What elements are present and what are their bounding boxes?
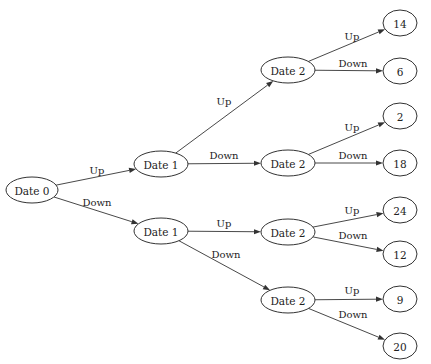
edge-line xyxy=(188,231,254,232)
leaf-node: 9 xyxy=(383,286,417,312)
node-label: Date 0 xyxy=(14,185,49,197)
edge-label: Down xyxy=(338,309,368,320)
edge-line xyxy=(315,70,376,71)
date-node: Date 2 xyxy=(261,150,315,176)
edge-up: Up xyxy=(176,81,274,153)
edges-layer: UpDownUpDownUpDownUpDownUpDownUpDownUpDo… xyxy=(54,29,385,340)
leaf-node: 24 xyxy=(383,197,417,223)
edge-label: Down xyxy=(209,150,239,161)
arrowhead-icon xyxy=(376,160,383,165)
leaf-node: 18 xyxy=(383,150,417,176)
node-label: 14 xyxy=(393,18,407,30)
edge-label: Up xyxy=(345,122,360,133)
edge-line xyxy=(179,241,264,287)
edge-line xyxy=(188,163,254,164)
leaf-node: 20 xyxy=(383,333,417,359)
date-node: Date 1 xyxy=(134,218,188,244)
node-label: Date 1 xyxy=(143,226,178,238)
leaf-node: 2 xyxy=(383,103,417,129)
edge-line xyxy=(313,215,377,228)
edge-down: Down xyxy=(179,241,270,291)
edge-label: Down xyxy=(82,197,112,208)
edge-down: Down xyxy=(54,197,139,224)
node-label: 24 xyxy=(393,205,407,217)
arrowhead-icon xyxy=(263,285,270,291)
leaf-node: 6 xyxy=(383,58,417,84)
arrowhead-icon xyxy=(376,297,383,302)
node-label: 18 xyxy=(393,158,406,170)
node-label: 6 xyxy=(397,66,404,78)
date-node: Date 1 xyxy=(134,151,188,177)
arrowhead-icon xyxy=(378,335,385,340)
edge-up: Up xyxy=(313,205,384,227)
edge-up: Up xyxy=(308,29,385,61)
node-label: Date 1 xyxy=(143,159,178,171)
edge-label: Down xyxy=(338,230,368,241)
arrowhead-icon xyxy=(378,122,385,127)
leaf-node: 12 xyxy=(383,241,417,267)
edge-label: Up xyxy=(217,218,232,229)
arrowhead-icon xyxy=(376,212,383,217)
edge-label: Up xyxy=(90,165,105,176)
edge-label: Down xyxy=(338,58,368,69)
arrowhead-icon xyxy=(376,247,383,252)
binomial-tree-diagram: UpDownUpDownUpDownUpDownUpDownUpDownUpDo… xyxy=(0,0,431,364)
node-label: Date 2 xyxy=(270,295,305,307)
edge-up: Up xyxy=(56,165,136,185)
arrowhead-icon xyxy=(254,161,261,166)
edge-label: Up xyxy=(217,96,232,107)
date-node: Date 2 xyxy=(261,219,315,245)
edge-down: Down xyxy=(309,308,385,339)
edge-up: Up xyxy=(188,218,261,234)
leaf-node: 14 xyxy=(383,10,417,36)
node-label: 2 xyxy=(397,111,404,123)
date-node: Date 0 xyxy=(6,177,58,203)
node-label: Date 2 xyxy=(270,227,305,239)
node-label: 12 xyxy=(393,249,406,261)
edge-down: Down xyxy=(313,230,384,252)
edge-label: Up xyxy=(345,205,360,216)
date-node: Date 2 xyxy=(261,57,315,83)
edge-label: Up xyxy=(345,31,360,42)
arrowhead-icon xyxy=(266,81,273,87)
arrowhead-icon xyxy=(131,219,138,224)
edge-line xyxy=(315,299,376,300)
node-label: Date 2 xyxy=(270,158,305,170)
node-label: 9 xyxy=(397,294,404,306)
edge-label: Down xyxy=(338,150,368,161)
edge-down: Down xyxy=(315,150,383,166)
node-label: 20 xyxy=(393,341,406,353)
date-node: Date 2 xyxy=(261,287,315,313)
arrowhead-icon xyxy=(254,229,261,234)
edge-up: Up xyxy=(315,285,383,302)
edge-down: Down xyxy=(315,58,383,73)
arrowhead-icon xyxy=(378,29,385,34)
arrowhead-icon xyxy=(376,68,383,73)
edge-label: Down xyxy=(211,249,241,260)
edge-label: Up xyxy=(345,285,360,296)
arrowhead-icon xyxy=(129,168,136,173)
node-label: Date 2 xyxy=(270,65,305,77)
edge-down: Down xyxy=(188,150,261,166)
